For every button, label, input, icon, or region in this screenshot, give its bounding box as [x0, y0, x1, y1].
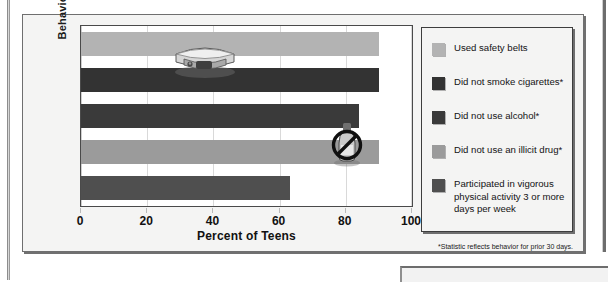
right-margin-rule — [602, 0, 606, 252]
x-tick-mark — [279, 208, 280, 213]
legend-item-label: Did not use alcohol* — [454, 110, 539, 123]
bar — [81, 104, 359, 128]
x-tick-label: 0 — [77, 214, 84, 228]
x-tick-label: 80 — [338, 214, 351, 228]
table-row — [81, 104, 412, 128]
x-tick-mark — [146, 208, 147, 213]
legend-item[interactable]: Participated in vigorous physical activi… — [432, 178, 570, 216]
legend-item-label: Did not use an illicit drug* — [454, 144, 562, 157]
x-tick-mark — [411, 208, 412, 213]
legend-item[interactable]: Did not use an illicit drug* — [432, 144, 570, 158]
x-tick-label: 100 — [401, 214, 421, 228]
legend-swatch-icon — [432, 179, 445, 192]
legend-item[interactable]: Did not smoke cigarettes* — [432, 76, 570, 90]
bar — [81, 140, 379, 164]
table-row — [81, 32, 412, 56]
table-row — [81, 140, 412, 164]
plot-wrapper: Behaviors — [39, 21, 391, 217]
legend-swatch-icon — [432, 43, 445, 56]
chart-card: Behaviors — [22, 14, 584, 252]
x-tick-label: 20 — [140, 214, 153, 228]
x-tick-label: 60 — [272, 214, 285, 228]
x-axis-title: Percent of Teens — [80, 229, 413, 243]
plot-area — [80, 25, 413, 207]
table-row — [81, 176, 412, 200]
legend-panel: Used safety beltsDid not smoke cigarette… — [421, 27, 573, 232]
chart-footnote: *Statistic reflects behavior for prior 3… — [423, 243, 573, 250]
x-tick-mark — [80, 208, 81, 213]
x-tick-mark — [345, 208, 346, 213]
legend-swatch-icon — [432, 111, 445, 124]
legend-item-label: Did not smoke cigarettes* — [454, 76, 563, 89]
bar — [81, 68, 379, 92]
bar — [81, 176, 290, 200]
legend-item[interactable]: Did not use alcohol* — [432, 110, 570, 124]
legend-swatch-icon — [432, 77, 445, 90]
x-axis-ticks: 020406080100 — [80, 208, 413, 228]
left-margin-rule — [7, 0, 10, 280]
bar — [81, 32, 379, 56]
legend-item[interactable]: Used safety belts — [432, 42, 570, 56]
bottom-decorative-box — [400, 266, 608, 282]
x-tick-label: 40 — [206, 214, 219, 228]
legend-item-label: Used safety belts — [454, 42, 528, 55]
x-tick-mark — [212, 208, 213, 213]
legend-item-label: Participated in vigorous physical activi… — [454, 178, 570, 216]
table-row — [81, 68, 412, 92]
y-axis-title: Behaviors — [55, 0, 69, 67]
legend-swatch-icon — [432, 145, 445, 158]
